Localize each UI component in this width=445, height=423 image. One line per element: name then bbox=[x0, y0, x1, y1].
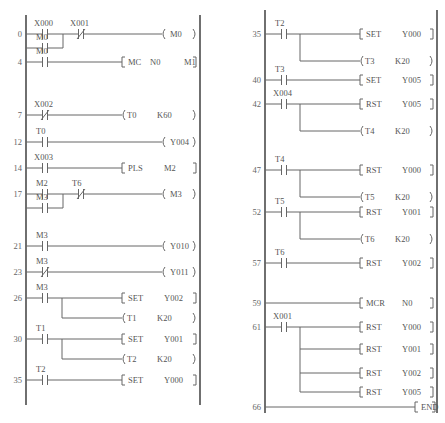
rung: 12Y004T0 bbox=[14, 126, 196, 148]
step-number: 17 bbox=[14, 189, 23, 199]
rung: 4MCN0M1M0 bbox=[18, 46, 196, 68]
contact-label: T6 bbox=[275, 247, 284, 257]
rung: 66END bbox=[253, 402, 439, 412]
rung: 52RSTY001T6K20T5 bbox=[253, 196, 434, 244]
timer-preset: K20 bbox=[395, 234, 410, 244]
rung: 17M3M2T6M3 bbox=[14, 178, 196, 214]
instruction-arg: Y000 bbox=[164, 375, 183, 385]
step-number: 52 bbox=[253, 207, 262, 217]
timer-coil: T5K20 bbox=[360, 192, 432, 202]
instruction-op: RST bbox=[366, 99, 382, 109]
step-number: 26 bbox=[14, 293, 23, 303]
coil-label: Y004 bbox=[170, 137, 190, 147]
contact-label: X001 bbox=[70, 18, 89, 28]
instruction-op: SET bbox=[366, 29, 382, 39]
instruction-op: RST bbox=[366, 344, 382, 354]
instruction-box: RSTY005 bbox=[360, 99, 433, 109]
timer-preset: K20 bbox=[395, 56, 410, 66]
contact-label: M3 bbox=[36, 230, 48, 240]
rung: 30SETY001T2K20T1 bbox=[14, 323, 197, 364]
step-number: 30 bbox=[14, 334, 23, 344]
instruction-arg: Y002 bbox=[164, 293, 183, 303]
contact-label: T5 bbox=[275, 196, 284, 206]
instruction-op: MC bbox=[128, 57, 142, 67]
timer-name: T0 bbox=[127, 110, 136, 120]
coil-label: M3 bbox=[170, 189, 182, 199]
timer-coil: T0K60 bbox=[122, 110, 195, 120]
instruction-box: MCN0M1 bbox=[122, 57, 196, 67]
step-number: 12 bbox=[14, 137, 23, 147]
rung: 35SETY000T2 bbox=[14, 364, 197, 386]
instruction-box: END bbox=[415, 402, 438, 412]
instruction-arg: Y000 bbox=[402, 322, 421, 332]
right-ladder: 35SETY000T3K20T240SETY005T342RSTY005T4K2… bbox=[253, 10, 439, 413]
instruction-arg: Y005 bbox=[402, 387, 421, 397]
instruction-box: RSTY001 bbox=[360, 207, 433, 217]
timer-coil: T3K20 bbox=[360, 56, 432, 66]
instruction-arg: Y005 bbox=[402, 75, 421, 85]
instruction-op: MCR bbox=[366, 298, 385, 308]
timer-preset: K20 bbox=[157, 354, 172, 364]
rung: 14PLSM2X003 bbox=[14, 152, 197, 174]
step-number: 42 bbox=[253, 99, 262, 109]
instruction-arg: Y000 bbox=[402, 165, 421, 175]
output-coil: Y010 bbox=[162, 241, 195, 251]
instruction-op: SET bbox=[128, 334, 144, 344]
contact-label: M2 bbox=[36, 178, 48, 188]
rung: 42RSTY005T4K20X004 bbox=[253, 88, 434, 136]
contact-label: T2 bbox=[36, 364, 45, 374]
timer-name: T3 bbox=[365, 56, 374, 66]
instruction-box: MCRN0 bbox=[360, 298, 433, 308]
rung: 23Y011M3 bbox=[14, 256, 196, 278]
timer-coil: T4K20 bbox=[360, 126, 432, 136]
step-number: 4 bbox=[18, 57, 23, 67]
instruction-op: RST bbox=[366, 322, 382, 332]
contact-label: X002 bbox=[34, 99, 53, 109]
output-coil: M0 bbox=[162, 29, 195, 39]
instruction-arg: Y002 bbox=[402, 368, 421, 378]
coil-label: Y011 bbox=[170, 267, 189, 277]
step-number: 35 bbox=[14, 375, 23, 385]
instruction-op: RST bbox=[366, 258, 382, 268]
step-number: 0 bbox=[18, 29, 22, 39]
timer-coil: T2K20 bbox=[122, 354, 195, 364]
timer-preset: K20 bbox=[395, 126, 410, 136]
contact-label: T3 bbox=[275, 64, 284, 74]
instruction-arg: Y005 bbox=[402, 99, 421, 109]
contact-label: T6 bbox=[72, 178, 81, 188]
step-number: 57 bbox=[253, 258, 262, 268]
instruction-arg: Y002 bbox=[402, 258, 421, 268]
step-number: 14 bbox=[14, 163, 23, 173]
rung: 26SETY002T1K20M3 bbox=[14, 282, 197, 323]
contact-label: M3 bbox=[36, 282, 48, 292]
instruction-op: END bbox=[421, 402, 438, 412]
rung: 61RSTY000RSTY001RSTY002RSTY005X001 bbox=[253, 311, 434, 397]
instruction-arg: N0 bbox=[150, 57, 160, 67]
step-number: 61 bbox=[253, 322, 262, 332]
instruction-op: RST bbox=[366, 207, 382, 217]
instruction-op: RST bbox=[366, 165, 382, 175]
contact-label: X003 bbox=[34, 152, 53, 162]
instruction-arg: N0 bbox=[402, 298, 412, 308]
output-coil: M3 bbox=[162, 189, 195, 199]
coil-label: Y010 bbox=[170, 241, 189, 251]
step-number: 35 bbox=[253, 29, 262, 39]
instruction-arg: M2 bbox=[164, 163, 176, 173]
step-number: 40 bbox=[253, 75, 262, 85]
instruction-op: RST bbox=[366, 368, 382, 378]
instruction-box: SETY001 bbox=[122, 334, 196, 344]
rung: 40SETY005T3 bbox=[253, 64, 434, 86]
contact-label: T0 bbox=[36, 126, 45, 136]
instruction-box: SETY002 bbox=[122, 293, 196, 303]
instruction-arg: Y001 bbox=[402, 344, 421, 354]
instruction-box: SETY000 bbox=[360, 29, 433, 39]
coil-label: M0 bbox=[170, 29, 182, 39]
instruction-box: SETY005 bbox=[360, 75, 433, 85]
timer-name: T6 bbox=[365, 234, 374, 244]
instruction-op: SET bbox=[128, 293, 144, 303]
instruction-box: RSTY001 bbox=[360, 344, 433, 354]
step-number: 21 bbox=[14, 241, 23, 251]
instruction-arg: M1 bbox=[184, 57, 196, 67]
timer-preset: K20 bbox=[395, 192, 410, 202]
rung: 7T0K60X002 bbox=[18, 99, 195, 121]
